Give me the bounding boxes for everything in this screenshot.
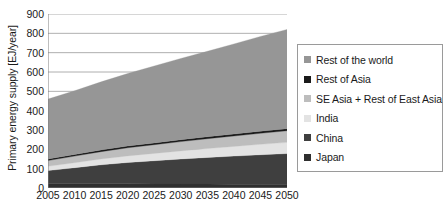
legend-item-label: China [316,132,343,144]
x-axis-tick-2050: 2050 [267,190,307,201]
y-axis-tick-300: 300 [14,125,44,136]
legend-swatch-icon [304,76,311,83]
legend-item-rest-of-the-world[interactable]: Rest of the world [304,50,442,70]
legend-item-label: Rest of the world [316,54,393,66]
legend-swatch-icon [304,56,311,63]
plot-area [48,14,287,188]
stacked-area-svg [48,14,287,188]
legend-swatch-icon [304,154,311,161]
y-axis-tick-600: 600 [14,67,44,78]
chart-figure: Primary energy supply [EJ/year] 90080070… [0,0,447,214]
legend-item-india[interactable]: India [304,109,442,129]
legend: Rest of the worldRest of AsiaSE Asia + R… [297,44,443,172]
legend-swatch-icon [304,115,311,122]
legend-swatch-icon [304,95,311,102]
y-axis-tick-labels: 9008007006005004003002001000 [10,0,44,214]
area-band-japan [48,184,287,188]
y-axis-tick-800: 800 [14,28,44,39]
legend-item-se-asia-rest-of-east-asia[interactable]: SE Asia + Rest of East Asia [304,89,442,109]
legend-swatch-icon [304,134,311,141]
y-axis-tick-100: 100 [14,164,44,175]
y-axis-tick-400: 400 [14,106,44,117]
legend-item-label: Japan [316,151,344,163]
legend-item-rest-of-asia[interactable]: Rest of Asia [304,70,442,90]
x-axis-tick-labels: 2005201020152020202520302035204020452050 [0,190,300,212]
y-axis-tick-200: 200 [14,144,44,155]
legend-item-label: India [316,112,338,124]
y-axis-tick-700: 700 [14,48,44,59]
legend-item-list: Rest of the worldRest of AsiaSE Asia + R… [298,45,442,171]
y-axis-tick-900: 900 [14,9,44,20]
legend-item-label: Rest of Asia [316,73,371,85]
legend-item-japan[interactable]: Japan [304,148,442,168]
legend-item-china[interactable]: China [304,128,442,148]
y-axis-tick-500: 500 [14,86,44,97]
legend-item-label: SE Asia + Rest of East Asia [316,93,442,105]
